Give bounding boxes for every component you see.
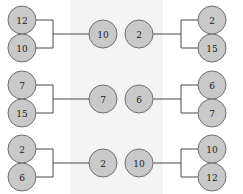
- node-middle-right-split-output-1[interactable]: 7: [198, 99, 226, 127]
- node-top-left-merge-output-0[interactable]: 10: [89, 20, 117, 48]
- node-layer: 12101022157157667262101012: [8, 6, 226, 191]
- node-label: 10: [206, 145, 218, 155]
- node-bottom-left-merge-input-0[interactable]: 2: [8, 135, 36, 163]
- node-top-right-split-output-0[interactable]: 2: [198, 6, 226, 34]
- node-middle-right-split-output-0[interactable]: 6: [198, 71, 226, 99]
- node-top-right-split-input-0[interactable]: 2: [125, 20, 153, 48]
- node-label: 7: [100, 95, 106, 105]
- node-label: 7: [19, 81, 25, 91]
- node-bottom-right-split-input-0[interactable]: 10: [125, 149, 153, 177]
- merge-split-diagram: 12101022157157667262101012: [0, 0, 243, 194]
- node-label: 2: [209, 16, 215, 26]
- node-label: 15: [206, 44, 218, 54]
- node-label: 6: [136, 95, 142, 105]
- node-label: 2: [100, 159, 106, 169]
- node-top-left-merge-input-0[interactable]: 12: [8, 6, 36, 34]
- node-middle-left-merge-output-0[interactable]: 7: [89, 85, 117, 113]
- node-bottom-right-split-output-0[interactable]: 10: [198, 135, 226, 163]
- node-middle-right-split-input-0[interactable]: 6: [125, 85, 153, 113]
- node-label: 10: [97, 30, 109, 40]
- node-label: 2: [136, 30, 142, 40]
- node-label: 15: [16, 109, 28, 119]
- node-label: 10: [133, 159, 145, 169]
- node-label: 2: [19, 145, 25, 155]
- node-bottom-right-split-output-1[interactable]: 12: [198, 163, 226, 191]
- node-middle-left-merge-input-0[interactable]: 7: [8, 71, 36, 99]
- node-top-right-split-output-1[interactable]: 15: [198, 34, 226, 62]
- node-label: 7: [209, 109, 215, 119]
- node-label: 10: [16, 44, 28, 54]
- node-middle-left-merge-input-1[interactable]: 15: [8, 99, 36, 127]
- node-label: 6: [209, 81, 215, 91]
- node-bottom-left-merge-input-1[interactable]: 6: [8, 163, 36, 191]
- node-top-left-merge-input-1[interactable]: 10: [8, 34, 36, 62]
- node-label: 6: [19, 173, 25, 183]
- node-label: 12: [16, 16, 27, 26]
- node-bottom-left-merge-output-0[interactable]: 2: [89, 149, 117, 177]
- diagram-canvas: 12101022157157667262101012: [0, 0, 243, 194]
- node-label: 12: [206, 173, 217, 183]
